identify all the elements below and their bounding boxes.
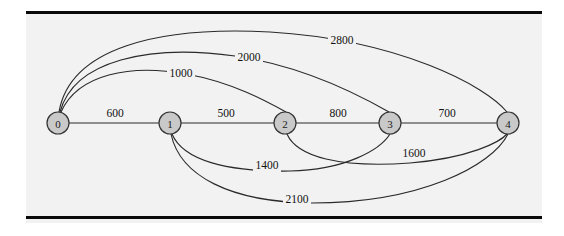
edge-weight-label: 1000 [170,67,193,79]
edge-weight-label: 800 [329,107,347,119]
edge-weight-label: 2000 [238,51,261,63]
edge-weight-label: 500 [217,107,235,119]
edge-weight-label: 600 [106,107,124,119]
graph-node-label: 3 [387,118,393,130]
edge-weight-label: 2100 [286,193,309,205]
edge-weight-label: 2800 [331,34,354,46]
graph-edge [171,134,508,203]
edge-weight-label: 1600 [403,147,426,159]
graph-node-label: 2 [282,118,288,130]
edge-weight-label: 700 [438,107,456,119]
figure-page: 600500800700100020002800140016002100 012… [0,0,564,236]
graph-edge [287,134,507,164]
graph-node-label: 4 [505,118,511,130]
graph-node-label: 1 [167,118,173,130]
edge-weight-label: 1400 [256,159,279,171]
graph-edge [60,52,389,112]
graph-node-label: 0 [55,118,61,130]
graph-canvas: 600500800700100020002800140016002100 012… [0,0,564,236]
